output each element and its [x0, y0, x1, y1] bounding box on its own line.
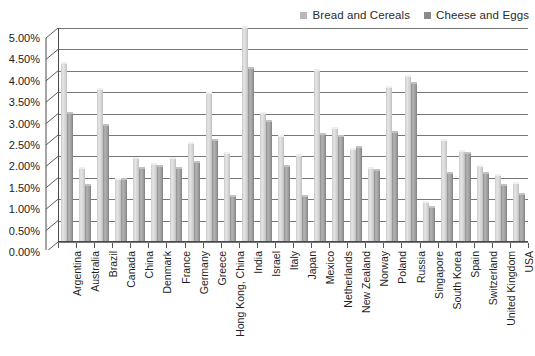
bar-cap: [79, 167, 85, 169]
x-axis-label-slot: Greece: [203, 249, 221, 353]
y-axis-tick-label: 0.50%: [9, 225, 40, 237]
x-axis-label: Hong Kong, China: [234, 165, 246, 251]
x-axis-label: USA: [523, 229, 535, 251]
x-axis-label-slot: Spain: [456, 249, 474, 353]
bar-cap: [447, 172, 453, 174]
x-axis-label-slot: Netherlands: [329, 249, 347, 353]
bar-group: [401, 28, 419, 242]
legend-swatch-icon: [424, 12, 431, 19]
bar-cap: [224, 152, 230, 154]
bar-group: [257, 28, 275, 242]
bar-cap: [176, 167, 182, 169]
x-axis-label-slot: Germany: [185, 249, 203, 353]
bar-cap: [374, 169, 380, 171]
x-axis-label: Switzerland: [487, 197, 499, 251]
x-axis-label: United Kingdom: [505, 176, 517, 251]
x-axis-label-slot: Argentina: [58, 249, 76, 353]
bar-cap: [519, 193, 525, 195]
legend-entry-cheese-and-eggs[interactable]: Cheese and Eggs: [424, 9, 529, 21]
x-axis-label: Denmark: [161, 208, 173, 251]
x-axis-label-slot: USA: [510, 249, 528, 353]
x-axis-label: Japan: [306, 222, 318, 251]
bar-cap: [411, 82, 417, 84]
x-axis-label-slot: France: [166, 249, 184, 353]
x-axis-label: China: [143, 224, 155, 251]
bar-cap: [465, 152, 471, 154]
x-axis-label-slot: Canada: [112, 249, 130, 353]
legend-swatch-icon: [300, 12, 307, 19]
bar-cap: [61, 62, 67, 64]
x-axis-label-slot: South Korea: [438, 249, 456, 353]
legend-label: Bread and Cereals: [312, 9, 410, 21]
bar-cap: [423, 201, 429, 203]
bar-cap: [139, 167, 145, 169]
x-axis-label-slot: Denmark: [148, 249, 166, 353]
x-axis-label-slot: Poland: [383, 249, 401, 353]
bar-cap: [296, 154, 302, 156]
bar-chart: Bread and Cereals Cheese and Eggs 0.00%0…: [0, 0, 535, 356]
bar-cap: [194, 161, 200, 163]
bar-cap: [320, 133, 326, 135]
bar-cap: [495, 174, 501, 176]
bar-cheese-and-eggs[interactable]: [266, 122, 272, 242]
legend-entry-bread-and-cereals[interactable]: Bread and Cereals: [300, 9, 410, 21]
x-axis-label: India: [252, 228, 264, 251]
bar-cap: [386, 86, 392, 88]
x-axis-label: France: [180, 218, 192, 251]
bar-cap: [121, 178, 127, 180]
bar-cap: [85, 184, 91, 186]
bar-cap: [284, 165, 290, 167]
x-axis-label-slot: Russia: [401, 249, 419, 353]
bar-cap: [67, 112, 73, 114]
bar-cap: [338, 135, 344, 137]
bar-cap: [242, 26, 248, 28]
chart-legend: Bread and Cereals Cheese and Eggs: [300, 9, 529, 21]
x-axis-label-slot: Japan: [293, 249, 311, 353]
x-axis-label-slot: Australia: [76, 249, 94, 353]
x-axis-labels: ArgentinaAustraliaBrazilCanadaChinaDenma…: [58, 249, 528, 353]
x-axis-label: Germany: [198, 208, 210, 251]
bar-cap: [441, 139, 447, 141]
y-axis-tick-label: 4.00%: [9, 75, 40, 87]
bar-cap: [157, 165, 163, 167]
x-axis-label-slot: Norway: [365, 249, 383, 353]
bar-group: [293, 28, 311, 242]
x-axis-tick: [58, 243, 59, 248]
x-axis-label-text: USA: [523, 251, 535, 273]
bar-cap: [266, 120, 272, 122]
x-axis-label: Australia: [89, 210, 101, 251]
x-axis-label: Canada: [125, 214, 137, 251]
y-axis-labels: 0.00%0.50%1.00%1.50%2.00%2.50%3.00%3.50%…: [0, 28, 46, 242]
x-axis-label: Argentina: [71, 206, 83, 251]
x-axis-label: Spain: [469, 224, 481, 251]
legend-label: Cheese and Eggs: [436, 9, 529, 21]
bar-cap: [314, 69, 320, 71]
bar-cheese-and-eggs[interactable]: [248, 69, 254, 242]
bar-group: [383, 28, 401, 242]
x-axis-label: Greece: [216, 217, 228, 251]
x-axis-label-slot: United Kingdom: [492, 249, 510, 353]
x-axis-label: Russia: [415, 219, 427, 251]
x-axis-label: New Zealand: [360, 189, 372, 251]
y-axis-tick-label: 5.00%: [9, 32, 40, 44]
bar-cap: [103, 124, 109, 126]
x-axis-label-slot: Singapore: [420, 249, 438, 353]
x-axis-label: Norway: [378, 215, 390, 251]
bar-cap: [483, 172, 489, 174]
x-axis-label-slot: Brazil: [94, 249, 112, 353]
x-axis-label-slot: Switzerland: [474, 249, 492, 353]
x-axis-label-slot: Hong Kong, China: [221, 249, 239, 353]
x-axis-label: Mexico: [324, 218, 336, 251]
x-axis-label-slot: Mexico: [311, 249, 329, 353]
x-axis-label: Israel: [270, 225, 282, 251]
bar-cap: [260, 112, 266, 114]
bar-cap: [170, 157, 176, 159]
y-axis-tick-label: 4.50%: [9, 53, 40, 65]
bar-group: [130, 28, 148, 242]
x-axis-label: Brazil: [107, 225, 119, 251]
y-axis-line: [58, 28, 59, 242]
x-axis-label-slot: India: [239, 249, 257, 353]
x-axis-label: Netherlands: [342, 194, 354, 251]
x-axis-label: Singapore: [433, 203, 445, 251]
x-axis-label-slot: New Zealand: [347, 249, 365, 353]
